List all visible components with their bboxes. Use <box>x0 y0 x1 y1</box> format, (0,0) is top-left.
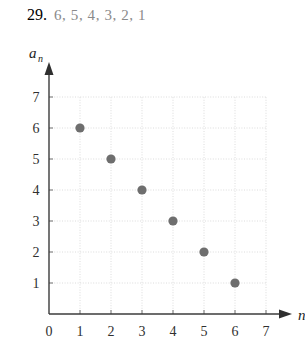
y-axis-tick-labels: 1234567 <box>33 90 40 291</box>
x-tick-label: 3 <box>139 324 146 339</box>
data-point <box>168 216 177 225</box>
x-tick-label: 1 <box>77 324 84 339</box>
y-tick-label: 3 <box>33 214 40 229</box>
y-tick-label: 1 <box>33 276 40 291</box>
data-point <box>137 185 146 194</box>
x-tick-label: 7 <box>263 324 270 339</box>
data-point <box>199 247 208 256</box>
scatter-plot: 1234567 01234567 a n n <box>0 0 305 354</box>
x-tick-label: 0 <box>46 324 53 339</box>
y-axis-arrow <box>45 62 54 75</box>
data-point <box>75 123 84 132</box>
x-axis-label: n <box>298 307 305 323</box>
x-axis-arrow <box>279 310 292 319</box>
y-axis-label: a <box>29 45 37 61</box>
x-axis-tick-labels: 01234567 <box>46 324 270 339</box>
x-tick-label: 5 <box>201 324 208 339</box>
data-points <box>75 123 239 287</box>
x-tick-label: 2 <box>108 324 115 339</box>
y-tick-label: 2 <box>33 245 40 260</box>
y-tick-label: 5 <box>33 152 40 167</box>
y-tick-label: 6 <box>33 121 40 136</box>
y-tick-label: 4 <box>33 183 40 198</box>
y-axis-label-subscript: n <box>38 53 43 64</box>
x-tick-label: 6 <box>232 324 239 339</box>
y-tick-label: 7 <box>33 90 40 105</box>
data-point <box>106 154 115 163</box>
x-tick-label: 4 <box>170 324 177 339</box>
data-point <box>230 278 239 287</box>
